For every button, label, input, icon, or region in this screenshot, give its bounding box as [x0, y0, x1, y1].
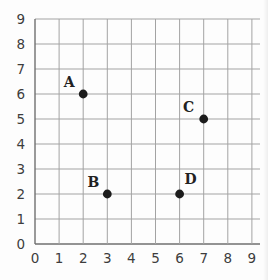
- point-label-B: B: [87, 174, 99, 190]
- x-tick-label: 5: [151, 250, 160, 266]
- scatter-plot: 01234567890123456789ABCD: [0, 0, 268, 280]
- y-tick-label: 9: [16, 11, 25, 27]
- x-tick-label: 3: [103, 250, 112, 266]
- x-tick-label: 0: [31, 250, 40, 266]
- data-point-A: [79, 90, 88, 99]
- data-point-D: [175, 190, 184, 199]
- y-tick-label: 2: [16, 186, 25, 202]
- y-tick-label: 0: [16, 236, 25, 252]
- y-tick-label: 1: [16, 211, 25, 227]
- x-tick-label: 1: [55, 250, 64, 266]
- x-tick-label: 9: [248, 250, 257, 266]
- y-tick-label: 4: [16, 136, 25, 152]
- x-tick-label: 2: [79, 250, 88, 266]
- x-tick-label: 4: [127, 250, 136, 266]
- y-tick-label: 7: [16, 61, 25, 77]
- coordinate-grid-figure: 01234567890123456789ABCD: [0, 0, 268, 280]
- y-tick-label: 8: [16, 36, 25, 52]
- point-label-A: A: [63, 74, 76, 90]
- x-tick-label: 7: [199, 250, 208, 266]
- x-tick-label: 8: [224, 250, 233, 266]
- point-label-D: D: [185, 171, 197, 187]
- point-label-C: C: [183, 99, 194, 115]
- y-tick-label: 5: [16, 111, 25, 127]
- x-tick-label: 6: [175, 250, 184, 266]
- data-point-C: [199, 115, 208, 124]
- data-point-B: [103, 190, 112, 199]
- y-tick-label: 6: [16, 86, 25, 102]
- y-tick-label: 3: [16, 161, 25, 177]
